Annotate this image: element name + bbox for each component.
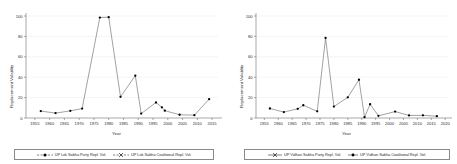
svg-text:1955: 1955	[30, 121, 40, 126]
legend-left: UP Lok Sabha Party Repl. Vol. UP Lok Sab…	[14, 149, 214, 160]
svg-text:2005: 2005	[178, 121, 188, 126]
svg-text:1975: 1975	[315, 121, 325, 126]
svg-text:80: 80	[18, 34, 23, 39]
svg-text:80: 80	[248, 34, 253, 39]
svg-text:1970: 1970	[302, 121, 312, 126]
svg-text:2005: 2005	[399, 121, 409, 126]
svg-text:1995: 1995	[148, 121, 158, 126]
legend-label-lok-sabha-party: UP Lok Sabha Party Repl. Vol.	[55, 153, 106, 157]
legend-marker-cross-icon	[113, 152, 129, 158]
legend-right: UP Vidhan Sabha Party Repl. Vol. UP Vidh…	[244, 149, 450, 160]
svg-text:100: 100	[16, 14, 24, 19]
y-axis-label-right: Replacement Volatility	[239, 65, 244, 108]
svg-text:60: 60	[248, 54, 253, 59]
svg-text:1970: 1970	[75, 121, 85, 126]
svg-text:60: 60	[18, 54, 23, 59]
legend-item-vidhan-sabha-coalitional[interactable]: UP Vidhan Sabha Coalitional Repl. Vol.	[348, 152, 426, 158]
svg-text:1980: 1980	[329, 121, 339, 126]
svg-text:40: 40	[18, 75, 23, 80]
legend-label-vidhan-sabha-party: UP Vidhan Sabha Party Repl. Vol.	[284, 153, 341, 157]
svg-text:2000: 2000	[385, 121, 395, 126]
x-axis-label-right: Year	[342, 131, 351, 136]
svg-text:1975: 1975	[89, 121, 99, 126]
svg-text:1965: 1965	[288, 121, 298, 126]
svg-text:1985: 1985	[343, 121, 353, 126]
vidhan-sabha-plot: 0204060801001955196019651970197519801985…	[228, 0, 456, 140]
legend-label-vidhan-sabha-coalitional: UP Vidhan Sabha Coalitional Repl. Vol.	[360, 153, 426, 157]
svg-text:2000: 2000	[163, 121, 173, 126]
svg-text:20: 20	[18, 95, 23, 100]
svg-text:0: 0	[250, 116, 253, 121]
legend-item-vidhan-sabha-party[interactable]: UP Vidhan Sabha Party Repl. Vol.	[268, 152, 341, 158]
svg-text:2020: 2020	[441, 121, 451, 126]
svg-text:2015: 2015	[427, 121, 437, 126]
svg-text:1990: 1990	[357, 121, 367, 126]
svg-text:0: 0	[20, 116, 23, 121]
legend-marker-filled-circle-icon	[37, 152, 53, 158]
svg-text:100: 100	[246, 14, 254, 19]
x-axis-label-left: Year	[112, 131, 121, 136]
y-axis-label-left: Replacement Volatility	[9, 65, 14, 108]
svg-text:2015: 2015	[208, 121, 218, 126]
svg-text:1955: 1955	[260, 121, 270, 126]
svg-text:1995: 1995	[371, 121, 381, 126]
legend-marker-cross-icon	[268, 152, 282, 158]
legend-marker-filled-circle-icon	[348, 152, 358, 158]
lok-sabha-plot: 0204060801001955196019651970197519801985…	[0, 0, 228, 140]
svg-text:1980: 1980	[104, 121, 114, 126]
chart-panel-lok-sabha: 0204060801001955196019651970197519801985…	[0, 0, 228, 164]
svg-text:1990: 1990	[134, 121, 144, 126]
legend-item-lok-sabha-party[interactable]: UP Lok Sabha Party Repl. Vol.	[37, 152, 106, 158]
svg-text:1985: 1985	[119, 121, 129, 126]
figure-root: 0204060801001955196019651970197519801985…	[0, 0, 457, 164]
legend-label-lok-sabha-coalitional: UP Lok Sabha Coalitional Repl. Vol.	[131, 153, 191, 157]
svg-text:40: 40	[248, 75, 253, 80]
svg-text:2010: 2010	[413, 121, 423, 126]
svg-text:1965: 1965	[60, 121, 70, 126]
svg-text:1960: 1960	[274, 121, 284, 126]
legend-item-lok-sabha-coalitional[interactable]: UP Lok Sabha Coalitional Repl. Vol.	[113, 152, 191, 158]
svg-text:1960: 1960	[45, 121, 55, 126]
svg-text:20: 20	[248, 95, 253, 100]
chart-panel-vidhan-sabha: 0204060801001955196019651970197519801985…	[228, 0, 456, 164]
svg-text:2010: 2010	[193, 121, 203, 126]
